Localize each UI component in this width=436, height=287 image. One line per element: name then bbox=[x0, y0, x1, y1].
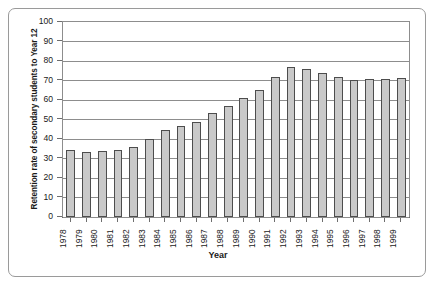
x-axis-tick-mark bbox=[337, 218, 338, 222]
x-axis-tick-mark bbox=[306, 218, 307, 222]
x-axis-tick-mark bbox=[400, 218, 401, 222]
x-axis-tick-mark bbox=[117, 218, 118, 222]
bar bbox=[224, 106, 233, 217]
bar bbox=[208, 113, 217, 217]
x-axis-tick-mark bbox=[70, 218, 71, 222]
x-axis-tick-labels: 1978197919801981198219831984198519861987… bbox=[62, 224, 410, 250]
plot-area bbox=[62, 21, 410, 218]
bar bbox=[145, 139, 154, 217]
bar bbox=[98, 151, 107, 217]
x-axis-tick-label: 1998 bbox=[371, 222, 383, 248]
y-axis-tick: 50 bbox=[0, 113, 62, 125]
y-axis-tick-label: 50 bbox=[43, 113, 53, 125]
y-axis-tick-label: 20 bbox=[43, 171, 53, 183]
y-axis-tick: 90 bbox=[0, 35, 62, 47]
bar bbox=[381, 79, 390, 217]
y-axis-tick: 100 bbox=[0, 15, 62, 27]
x-axis-tick-label: 1981 bbox=[104, 222, 116, 248]
y-axis-tick-label: 0 bbox=[48, 210, 53, 222]
x-axis-tick-mark bbox=[211, 218, 212, 222]
x-axis-tick-label: 1983 bbox=[136, 222, 148, 248]
bar bbox=[365, 79, 374, 217]
x-axis-tick-label: 1993 bbox=[293, 222, 305, 248]
x-axis-tick-label: 1999 bbox=[387, 222, 399, 248]
y-axis-tick: 20 bbox=[0, 171, 62, 183]
bar bbox=[161, 130, 170, 217]
x-axis-tick-mark bbox=[369, 218, 370, 222]
x-axis-tick-label: 1982 bbox=[120, 222, 132, 248]
x-axis-tick-mark bbox=[274, 218, 275, 222]
x-axis-tick-mark bbox=[227, 218, 228, 222]
x-axis-tick-mark bbox=[133, 218, 134, 222]
x-axis-tick-label: 1990 bbox=[246, 222, 258, 248]
x-axis-tick-mark bbox=[196, 218, 197, 222]
x-axis-tick-mark bbox=[86, 218, 87, 222]
x-axis-tick-label: 1989 bbox=[230, 222, 242, 248]
y-axis-tick-label: 30 bbox=[43, 152, 53, 164]
x-axis-tick-mark bbox=[290, 218, 291, 222]
y-axis-tick-label: 40 bbox=[43, 132, 53, 144]
x-axis-tick-label: 1997 bbox=[356, 222, 368, 248]
bar bbox=[82, 152, 91, 217]
bar bbox=[397, 78, 406, 217]
x-axis-tick-label: 1991 bbox=[261, 222, 273, 248]
y-axis-tick-group: 1009080706050403020100 bbox=[0, 0, 62, 287]
x-axis-tick-label: 1988 bbox=[214, 222, 226, 248]
bar bbox=[271, 77, 280, 217]
bar bbox=[302, 69, 311, 217]
bar bbox=[255, 90, 264, 217]
y-axis-tick: 30 bbox=[0, 152, 62, 164]
y-axis-tick-label: 100 bbox=[39, 15, 53, 27]
y-axis-tick-label: 60 bbox=[43, 93, 53, 105]
x-axis-tick-label: 1984 bbox=[151, 222, 163, 248]
x-axis-tick-mark bbox=[149, 218, 150, 222]
x-axis-tick-mark bbox=[243, 218, 244, 222]
x-axis-tick-label: 1980 bbox=[88, 222, 100, 248]
x-axis-title: Year bbox=[0, 250, 436, 260]
bar bbox=[318, 73, 327, 217]
y-axis-tick: 80 bbox=[0, 54, 62, 66]
x-axis-tick-mark bbox=[180, 218, 181, 222]
bar bbox=[177, 126, 186, 217]
x-axis-tick-label: 1996 bbox=[340, 222, 352, 248]
y-axis-tick: 10 bbox=[0, 191, 62, 203]
bar bbox=[334, 77, 343, 217]
x-axis-tick-mark bbox=[164, 218, 165, 222]
retention-rate-bar-chart: Retention rate of secondary students to … bbox=[0, 0, 436, 287]
bar bbox=[239, 98, 248, 217]
bar bbox=[350, 80, 359, 217]
x-axis-tick-mark bbox=[101, 218, 102, 222]
x-axis-tick-mark bbox=[384, 218, 385, 222]
y-axis-tick: 0 bbox=[0, 210, 62, 222]
x-axis-tick-mark bbox=[322, 218, 323, 222]
y-axis-tick-label: 70 bbox=[43, 74, 53, 86]
x-axis-tick-mark bbox=[259, 218, 260, 222]
y-axis-tick: 70 bbox=[0, 74, 62, 86]
x-axis-tick-label: 1985 bbox=[167, 222, 179, 248]
y-axis-tick: 60 bbox=[0, 93, 62, 105]
x-axis-tick-label: 1978 bbox=[57, 222, 69, 248]
x-axis-tick-label: 1987 bbox=[198, 222, 210, 248]
bar bbox=[114, 150, 123, 217]
x-axis-tick-label: 1994 bbox=[309, 222, 321, 248]
y-axis-tick: 40 bbox=[0, 132, 62, 144]
bar bbox=[129, 147, 138, 217]
y-axis-tick-label: 10 bbox=[43, 191, 53, 203]
x-axis-tick-label: 1979 bbox=[73, 222, 85, 248]
y-axis-tick-label: 80 bbox=[43, 54, 53, 66]
bar bbox=[192, 122, 201, 217]
y-axis-tick-label: 90 bbox=[43, 35, 53, 47]
x-axis-tick-mark bbox=[353, 218, 354, 222]
bar-series bbox=[63, 22, 409, 217]
x-axis-tick-label: 1992 bbox=[277, 222, 289, 248]
bar bbox=[287, 67, 296, 217]
bar bbox=[66, 150, 75, 217]
x-axis-tick-label: 1986 bbox=[183, 222, 195, 248]
x-axis-tick-label: 1995 bbox=[324, 222, 336, 248]
